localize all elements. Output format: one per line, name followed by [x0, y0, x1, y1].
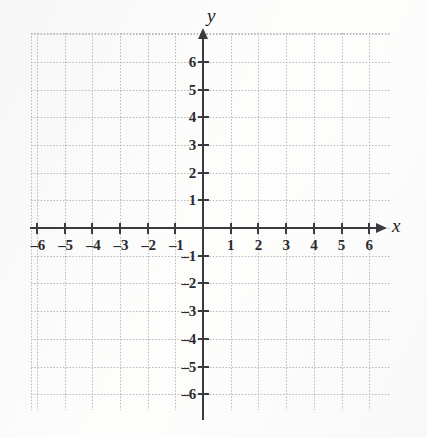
- x-axis-tick-label: –5: [58, 238, 73, 253]
- y-axis-tick-label: –4: [181, 331, 196, 346]
- y-axis-tick: [198, 310, 209, 312]
- x-axis-tick: [91, 223, 93, 234]
- x-axis-tick: [147, 223, 149, 234]
- gridline-horizontal: [31, 339, 390, 340]
- gridline-horizontal: [31, 117, 390, 118]
- x-axis-tick-label: 4: [310, 238, 317, 253]
- y-axis-arrowhead-icon: [198, 28, 208, 39]
- y-axis-tick-label: 6: [189, 54, 196, 69]
- y-axis-label: y: [207, 6, 215, 25]
- x-axis-tick-label: 5: [338, 238, 345, 253]
- y-axis-tick: [198, 338, 209, 340]
- x-axis-tick: [64, 223, 66, 234]
- y-axis-tick: [198, 144, 209, 146]
- x-axis-tick-label: –2: [141, 238, 156, 253]
- x-axis-tick: [119, 223, 121, 234]
- y-axis-tick: [198, 255, 209, 257]
- y-axis-tick-label: –5: [181, 359, 196, 374]
- x-axis-tick-label: 6: [366, 238, 373, 253]
- x-axis-tick-label: 2: [255, 238, 262, 253]
- x-axis-label: x: [392, 216, 400, 235]
- y-axis-tick: [198, 172, 209, 174]
- x-axis-tick-label: –4: [86, 238, 101, 253]
- y-axis-tick-label: 1: [189, 193, 196, 208]
- gridline-horizontal: [31, 200, 390, 201]
- x-axis-arrowhead-icon: [376, 223, 387, 233]
- x-axis-tick: [368, 223, 370, 234]
- x-axis-tick: [174, 223, 176, 234]
- gridline-horizontal: [31, 311, 390, 312]
- x-axis-tick-label: 3: [282, 238, 289, 253]
- grid-area: [31, 33, 390, 410]
- gridline-horizontal: [31, 62, 390, 63]
- y-axis-tick-label: 5: [189, 82, 196, 97]
- y-axis-tick-label: 2: [189, 165, 196, 180]
- coordinate-plane-figure: –6–5–4–3–2–1123456–6–5–4–3–2–1123456 x y: [0, 0, 427, 438]
- x-axis-tick: [36, 223, 38, 234]
- y-axis-line: [202, 38, 204, 420]
- gridline-horizontal: [31, 256, 390, 257]
- y-axis-tick: [198, 116, 209, 118]
- y-axis-tick: [198, 199, 209, 201]
- gridline-horizontal: [31, 367, 390, 368]
- y-axis-tick: [198, 282, 209, 284]
- x-axis-tick: [257, 223, 259, 234]
- y-axis-tick: [198, 393, 209, 395]
- y-axis-tick-label: –3: [181, 304, 196, 319]
- x-axis-tick: [313, 223, 315, 234]
- y-axis-tick-label: 3: [189, 137, 196, 152]
- gridline-horizontal: [31, 145, 390, 146]
- y-axis-tick-label: –2: [181, 276, 196, 291]
- y-axis-tick-label: –6: [181, 387, 196, 402]
- y-axis-tick-label: 4: [189, 110, 196, 125]
- x-axis-tick-label: –6: [30, 238, 45, 253]
- gridline-horizontal: [31, 394, 390, 395]
- x-axis-tick: [230, 223, 232, 234]
- gridline-horizontal: [31, 90, 390, 91]
- x-axis-tick-label: –3: [114, 238, 129, 253]
- gridline-border-horizontal: [31, 33, 390, 34]
- x-axis-tick-label: 1: [227, 238, 234, 253]
- y-axis-tick: [198, 366, 209, 368]
- x-axis-tick: [341, 223, 343, 234]
- x-axis-tick: [285, 223, 287, 234]
- gridline-horizontal: [31, 173, 390, 174]
- gridline-horizontal: [31, 283, 390, 284]
- gridline-horizontal: [31, 34, 390, 35]
- y-axis-tick: [198, 61, 209, 63]
- y-axis-tick: [198, 89, 209, 91]
- y-axis-tick-label: –1: [181, 248, 196, 263]
